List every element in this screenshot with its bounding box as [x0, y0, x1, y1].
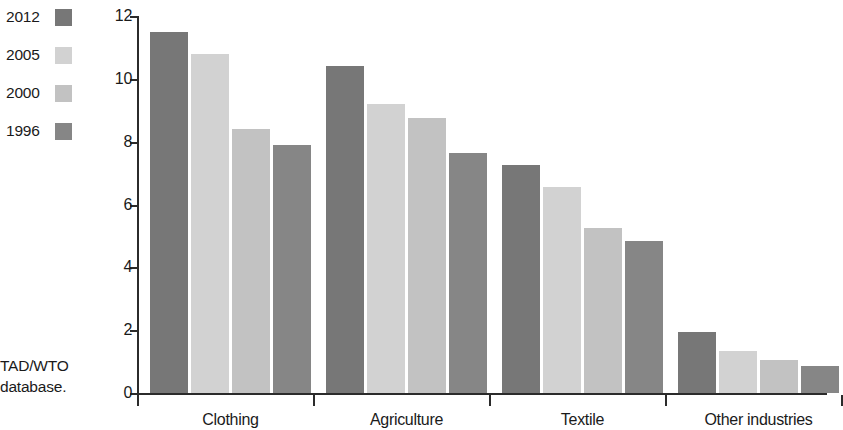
y-axis-tick-label: 12	[115, 6, 132, 25]
bar	[150, 32, 188, 393]
legend-item: 2000	[6, 84, 84, 122]
legend-item: 2012	[6, 8, 84, 46]
legend-item-label: 2005	[6, 46, 46, 64]
legend-color-swatch	[55, 9, 72, 26]
bar	[273, 145, 311, 393]
bar	[543, 187, 581, 393]
bar	[584, 228, 622, 393]
legend-item: 2005	[6, 46, 84, 84]
legend-item-label: 2000	[6, 84, 46, 102]
legend-color-swatch	[55, 47, 72, 64]
x-axis-category-label: Agriculture	[370, 410, 443, 430]
y-axis-tick-label: 0	[123, 383, 132, 402]
source-note: TAD/WTO database.	[0, 355, 69, 397]
legend-item-label: 2012	[6, 8, 46, 26]
x-axis-category-label: Other industries	[704, 410, 812, 430]
bar	[801, 366, 839, 393]
legend-item-label: 1996	[6, 122, 46, 140]
x-axis-tick-mark	[665, 395, 667, 406]
bar	[719, 351, 757, 393]
bar	[678, 332, 716, 393]
y-axis-tick-label: 2	[123, 320, 132, 339]
bar	[625, 241, 663, 393]
y-axis-tick-label: 8	[123, 132, 132, 151]
bar	[408, 118, 446, 393]
bar	[232, 129, 270, 393]
legend-item: 1996	[6, 122, 84, 160]
y-axis-tick-label: 6	[123, 195, 132, 214]
bar	[449, 153, 487, 393]
bar	[326, 66, 364, 393]
x-axis-tick-mark	[313, 395, 315, 406]
x-axis-tick-mark	[137, 395, 139, 406]
legend-color-swatch	[55, 123, 72, 140]
y-axis-tick-label: 10	[115, 69, 132, 88]
x-axis-category-label: Clothing	[202, 410, 258, 430]
chart-plot-area: 024681012 ClothingAgricultureTextileOthe…	[137, 16, 827, 394]
chart-legend: 2012 2005 2000 1996	[6, 8, 84, 160]
bar	[367, 104, 405, 393]
bar	[502, 165, 540, 393]
y-axis-tick-label: 4	[123, 257, 132, 276]
x-axis-tick-mark	[489, 395, 491, 406]
x-axis-category-label: Textile	[561, 410, 604, 430]
x-axis-line	[137, 393, 827, 395]
legend-color-swatch	[55, 85, 72, 102]
bar	[191, 54, 229, 393]
bar	[760, 360, 798, 393]
